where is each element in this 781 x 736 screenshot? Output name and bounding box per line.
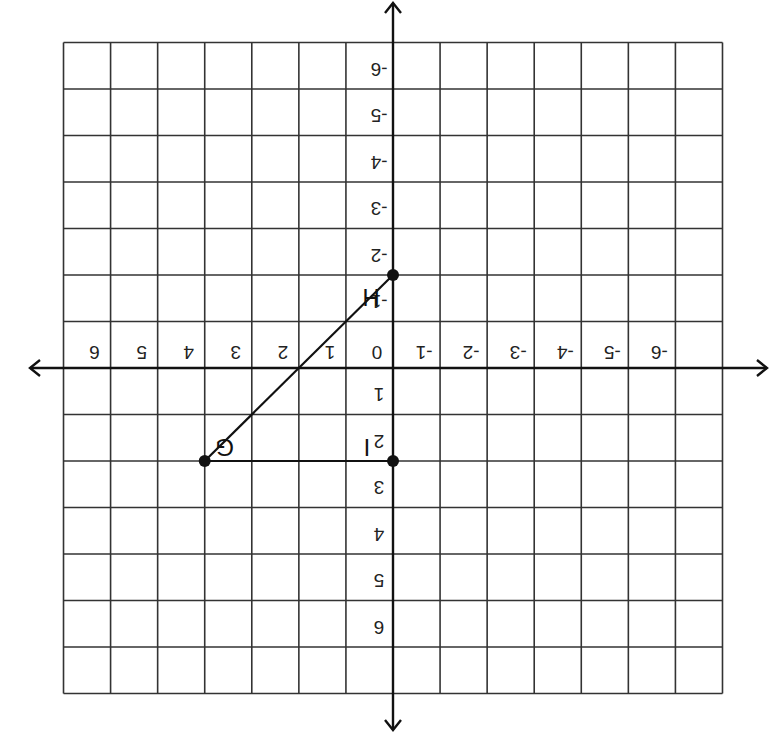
x-tick-label: -2	[463, 342, 480, 363]
point-I	[387, 455, 399, 467]
x-tick-label: 0	[372, 342, 383, 363]
y-tick-label: 6	[374, 617, 385, 638]
x-tick-label: 6	[89, 342, 100, 363]
point-H	[387, 269, 399, 281]
y-tick-label: 1	[374, 384, 385, 405]
y-tick-label: -6	[371, 59, 388, 80]
y-tick-label: -4	[370, 152, 387, 173]
x-tick-label: -3	[510, 342, 527, 363]
coordinate-plane: -6-5-4-3-2-10123456 -6-5-4-3-2-1123456 G…	[0, 0, 781, 736]
point-label-H: H	[362, 284, 379, 311]
point-label-G: G	[215, 434, 234, 461]
y-tick-label: 2	[374, 431, 385, 452]
point-label-I: I	[364, 434, 371, 461]
x-tick-label: -6	[651, 342, 668, 363]
y-tick-label: -2	[371, 245, 388, 266]
point-G	[199, 455, 211, 467]
x-tick-label: -1	[416, 342, 433, 363]
y-tick-label: 5	[374, 570, 385, 591]
x-tick-label: 3	[231, 342, 242, 363]
y-tick-label: 4	[373, 524, 384, 545]
x-tick-label: -5	[604, 342, 621, 363]
x-tick-label: 2	[278, 342, 289, 363]
y-tick-label: 3	[374, 477, 385, 498]
y-tick-label: -5	[371, 105, 388, 126]
x-tick-label: 1	[325, 342, 336, 363]
axes	[30, 3, 767, 730]
x-tick-label: 5	[136, 342, 147, 363]
x-tick-label: 4	[183, 342, 194, 363]
x-tick-label: -4	[556, 342, 573, 363]
y-tick-label: -3	[371, 198, 388, 219]
